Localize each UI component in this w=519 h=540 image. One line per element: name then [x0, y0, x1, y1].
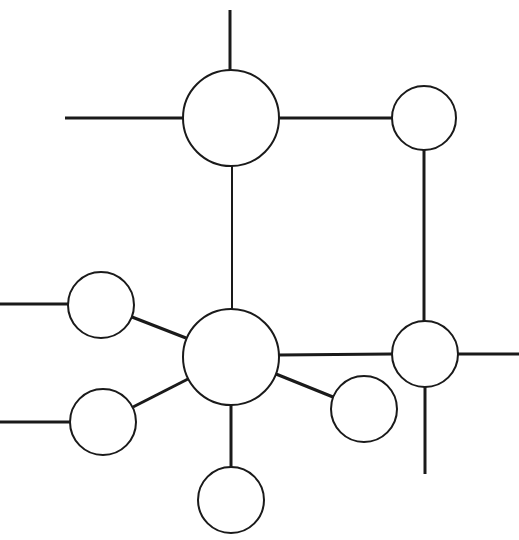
edge-center-hub-to-lower-right [276, 374, 333, 397]
network-diagram [0, 0, 519, 540]
nodes-layer [68, 70, 458, 533]
node-lower-left [70, 389, 136, 455]
node-center-hub [183, 309, 279, 405]
edge-center-hub-to-right [279, 354, 392, 355]
edge-lower-left-to-center-hub [133, 379, 188, 407]
node-right [392, 321, 458, 387]
edge-upper-left-to-center-hub [132, 317, 186, 338]
node-bottom [198, 467, 264, 533]
node-top-hub [183, 70, 279, 166]
node-upper-left [68, 272, 134, 338]
node-lower-right [331, 376, 397, 442]
node-top-right [392, 86, 456, 150]
